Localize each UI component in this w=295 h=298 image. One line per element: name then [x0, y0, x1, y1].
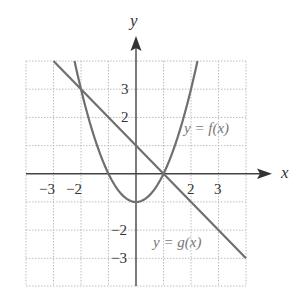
g-curve-label: y = g(x) — [153, 235, 201, 250]
axes — [26, 45, 262, 286]
y-tick-label: 3 — [121, 82, 129, 97]
y-axis-label: y — [130, 12, 138, 29]
graph-plot — [0, 0, 295, 298]
y-tick-label: −3 — [111, 251, 127, 266]
y-tick-label: 2 — [121, 110, 129, 125]
x-axis-label: x — [281, 164, 289, 181]
x-tick-label: −2 — [66, 182, 82, 197]
y-tick-label: −2 — [111, 223, 127, 238]
x-tick-label: 2 — [187, 182, 195, 197]
x-tick-label: 3 — [214, 182, 222, 197]
x-tick-label: −3 — [39, 182, 55, 197]
f-curve-label: y = f(x) — [184, 121, 229, 136]
